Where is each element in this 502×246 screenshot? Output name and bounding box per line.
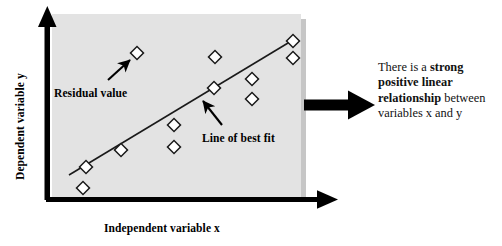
x-axis-label: Independent variable x	[104, 222, 220, 235]
conclusion-arrow-icon	[304, 91, 375, 120]
y-axis-label: Dependent variable y	[14, 73, 27, 180]
residual-callout-label: Residual value	[54, 87, 127, 99]
conclusion-lead: There is a	[378, 60, 430, 74]
figure-canvas: Residual value Line of best fit Dependen…	[0, 0, 502, 246]
conclusion-text: There is a strong positive linear relati…	[378, 60, 500, 121]
scatter-plot-figure: Residual value Line of best fit Dependen…	[0, 0, 502, 246]
best-fit-callout-label: Line of best fit	[202, 132, 275, 144]
